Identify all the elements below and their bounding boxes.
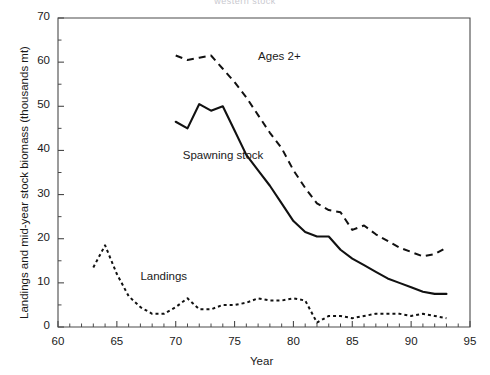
x-tick-label: 65 — [102, 335, 132, 347]
y-tick-label: 0 — [20, 319, 50, 331]
annotation-landings: Landings — [140, 270, 187, 282]
annotation-ages-2: Ages 2+ — [258, 50, 301, 62]
x-axis-label: Year — [250, 355, 273, 367]
y-axis-label: Landings and mid-year stock biomass (tho… — [18, 46, 30, 319]
x-tick-label: 60 — [43, 335, 73, 347]
series-landings — [93, 245, 446, 322]
annotation-spawning-stock: Spawning stock — [183, 149, 264, 161]
chart-figure: western stock 010203040506070 6065707580… — [0, 0, 490, 375]
x-tick-label: 70 — [161, 335, 191, 347]
x-tick-label: 90 — [396, 335, 426, 347]
series-spawning-stock — [176, 104, 447, 294]
x-tick-label: 85 — [337, 335, 367, 347]
x-tick-label: 95 — [455, 335, 485, 347]
axis-ticks — [58, 18, 470, 327]
y-tick-label: 70 — [20, 10, 50, 22]
axis-frame — [58, 18, 470, 327]
x-tick-label: 75 — [220, 335, 250, 347]
plot-svg — [0, 0, 490, 375]
x-tick-label: 80 — [278, 335, 308, 347]
